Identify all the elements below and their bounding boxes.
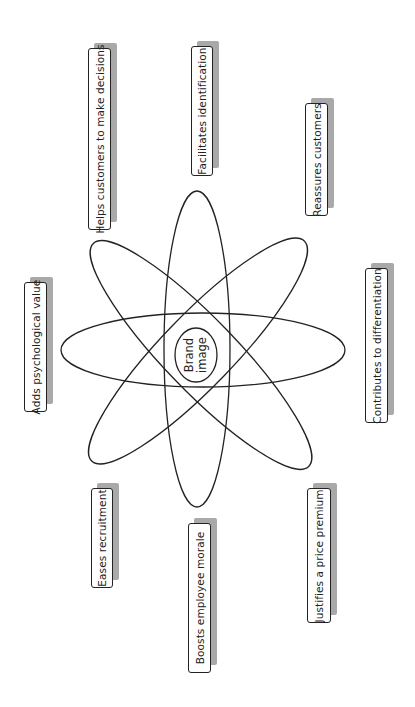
- label-facilitates-identification: Facilitates identification: [191, 46, 213, 176]
- label-eases-recruitment: Eases recruitment: [91, 488, 113, 588]
- label-text: Eases recruitment: [96, 489, 108, 586]
- brand-image-diagram: Brand image Helps customers to make deci…: [0, 0, 415, 707]
- label-text: Adds psychological value: [30, 280, 42, 415]
- label-adds-psychological-value: Adds psychological value: [24, 282, 47, 412]
- label-contributes-differentiation: Contributes to differentiation: [365, 268, 388, 423]
- label-text: Reassures customers: [311, 103, 323, 216]
- label-boosts-morale: Boosts employee morale: [188, 523, 211, 673]
- label-text: Justifies a price premium: [313, 489, 325, 622]
- label-justifies-premium: Justifies a price premium: [307, 488, 331, 623]
- label-text: Boosts employee morale: [194, 532, 206, 665]
- label-text: Contributes to differentiation: [371, 268, 383, 424]
- label-text: Facilitates identification: [196, 47, 208, 174]
- center-label-line2: image: [195, 337, 209, 373]
- label-helps-customers: Helps customers to make decisions: [88, 48, 111, 230]
- label-text: Helps customers to make decisions: [94, 44, 106, 233]
- center-label-line1: Brand: [182, 338, 196, 372]
- label-reassures-customers: Reassures customers: [305, 103, 328, 216]
